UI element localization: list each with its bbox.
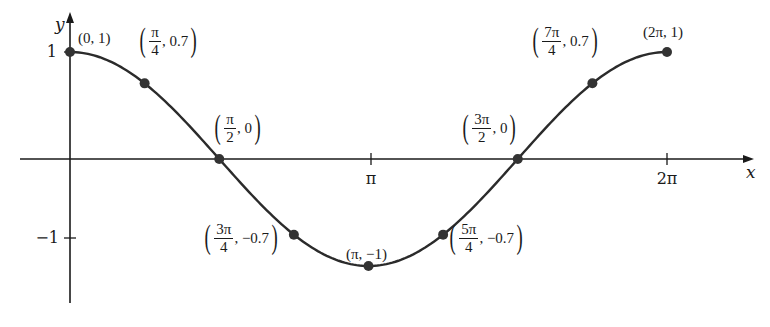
- fraction: 3π4: [214, 222, 233, 255]
- open-paren: (: [205, 220, 211, 254]
- fraction-numerator: π: [149, 25, 161, 42]
- fraction: π2: [224, 112, 236, 145]
- point-label-pi-neg1: (π, −1): [346, 247, 387, 262]
- point-label-rest: , 0.7: [562, 34, 588, 49]
- point-label-rest: , −0.7: [234, 231, 269, 246]
- close-paren: ): [517, 220, 523, 254]
- data-point: [587, 78, 597, 88]
- y-axis-arrow-icon: [66, 12, 74, 23]
- fraction: 7π4: [542, 25, 561, 58]
- point-label-text: (0, 1): [78, 30, 111, 46]
- data-point: [289, 230, 299, 240]
- x-axis-label: x: [746, 162, 756, 182]
- fraction-numerator: 3π: [214, 222, 233, 239]
- point-label-pi-over-4: ( π4 , 0.7 ): [137, 25, 199, 58]
- fraction-denominator: 2: [226, 129, 234, 145]
- fraction-numerator: 5π: [459, 222, 478, 239]
- point-label-3pi-over-2: ( 3π2 , 0 ): [460, 112, 519, 145]
- y-tick-label-neg1: −1: [35, 228, 59, 247]
- point-label-text: (2π, 1): [643, 24, 683, 40]
- point-label-2pi-1: (2π, 1): [643, 25, 683, 40]
- data-point: [513, 154, 523, 164]
- y-axis-label: y: [54, 14, 65, 34]
- data-point: [214, 154, 224, 164]
- close-paren: ): [591, 23, 597, 57]
- x-tick-label-2pi: 2π: [657, 169, 678, 188]
- open-paren: (: [533, 23, 539, 57]
- point-label-3pi-over-4: ( 3π4 , −0.7 ): [202, 222, 280, 255]
- y-tick-label-1: 1: [47, 42, 57, 61]
- fraction-numerator: 7π: [542, 25, 561, 42]
- point-label-rest: , 0.7: [162, 34, 188, 49]
- fraction-denominator: 4: [548, 42, 556, 58]
- point-label-5pi-over-4: ( 5π4 , −0.7 ): [447, 222, 525, 255]
- fraction-denominator: 4: [220, 239, 228, 255]
- point-label-text: (π, −1): [346, 246, 387, 262]
- point-label-7pi-over-4: ( 7π4 , 0.7 ): [530, 25, 600, 58]
- open-paren: (: [140, 23, 146, 57]
- close-paren: ): [254, 110, 260, 144]
- data-point: [662, 47, 672, 57]
- open-paren: (: [463, 110, 469, 144]
- fraction-numerator: π: [224, 112, 236, 129]
- open-paren: (: [450, 220, 456, 254]
- point-label-rest: , 0: [237, 121, 252, 136]
- fraction: 5π4: [459, 222, 478, 255]
- cosine-chart: π 2π 1 −1 x y: [0, 0, 770, 327]
- point-label-rest: , −0.7: [479, 231, 514, 246]
- fraction-denominator: 4: [465, 239, 473, 255]
- fraction-denominator: 4: [151, 42, 159, 58]
- fraction: π4: [149, 25, 161, 58]
- data-point: [140, 78, 150, 88]
- point-label-pi-over-2: ( π2 , 0 ): [212, 112, 263, 145]
- data-point: [65, 47, 75, 57]
- close-paren: ): [272, 220, 278, 254]
- close-paren: ): [510, 110, 516, 144]
- point-label-rest: , 0: [492, 121, 507, 136]
- point-label-0-1: (0, 1): [78, 31, 111, 46]
- fraction: 3π2: [472, 112, 491, 145]
- close-paren: ): [191, 23, 197, 57]
- fraction-numerator: 3π: [472, 112, 491, 129]
- x-tick-label-pi: π: [366, 169, 377, 188]
- fraction-denominator: 2: [478, 129, 486, 145]
- data-point: [364, 261, 374, 271]
- open-paren: (: [215, 110, 221, 144]
